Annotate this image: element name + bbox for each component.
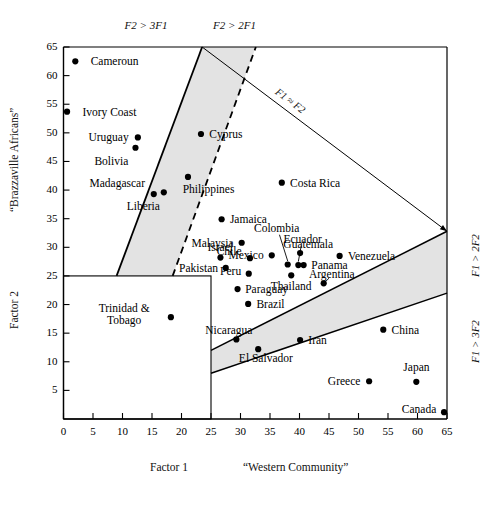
data-point[interactable] [168,314,174,320]
data-point[interactable] [185,174,191,180]
data-point[interactable] [161,189,167,195]
point-label: Peru [220,265,241,277]
point-label: Brazil [256,298,284,310]
point-label: Japan [403,361,429,373]
data-point[interactable] [198,131,204,137]
y-axis-title: Factor 2 [8,291,20,329]
point-label: Greece [328,375,361,387]
data-point[interactable] [64,109,70,115]
x-tick-label: 5 [82,425,104,437]
point-label: Ivory Coast [82,106,136,118]
point-label: Nicaragua [205,324,252,336]
point-label: Canada [402,403,436,415]
y-tick-label: 60 [34,69,58,81]
data-point[interactable] [337,253,343,259]
point-label: Pakistan [179,262,218,274]
point-label: Cyprus [209,128,242,140]
data-point[interactable] [151,191,157,197]
region-label-top: F2 > 2F1 [213,19,256,31]
x-axis-title: Factor 1 [150,461,188,473]
point-label: Uruguay [88,131,128,143]
point-label: Philippines [183,183,235,195]
inset-box [64,276,212,419]
x-tick-label: 35 [259,425,281,437]
point-label: China [392,324,419,336]
point-label: Trinidad &Tobago [99,302,150,326]
point-label: Thailand [271,280,312,292]
x-tick-label: 15 [141,425,163,437]
y-tick-label: 25 [34,269,58,281]
data-point[interactable] [380,327,386,333]
point-label: Iran [308,334,327,346]
data-point[interactable] [295,262,301,268]
y-tick-label: 40 [34,183,58,195]
data-point[interactable] [245,301,251,307]
y-tick-label: 15 [34,326,58,338]
region-label-right: F1 > 3F2 [469,320,481,363]
y-axis-secondary-title: “Brazzaville Africans” [8,108,20,212]
point-label: Bolivia [94,155,128,167]
region-label-top: F2 > 3F1 [125,19,168,31]
x-axis-secondary-title: “Western Community” [243,461,348,473]
data-point[interactable] [321,280,327,286]
diagonal-arrowhead [440,225,447,231]
x-tick-label: 30 [230,425,252,437]
point-label: Costa Rica [290,177,340,189]
chart-root: 0510152025303540455055606551015202530354… [0,0,485,512]
data-point[interactable] [219,216,225,222]
x-tick-label: 50 [348,425,370,437]
data-point[interactable] [413,379,419,385]
y-tick-label: 65 [34,40,58,52]
x-tick-label: 45 [318,425,340,437]
point-label: El Salvador [239,352,293,364]
data-point[interactable] [279,180,285,186]
point-label: Cameroun [91,55,139,67]
x-tick-label: 65 [436,425,458,437]
data-point[interactable] [297,337,303,343]
x-tick-label: 55 [377,425,399,437]
x-tick-label: 25 [200,425,222,437]
data-point[interactable] [297,250,303,256]
data-point[interactable] [301,262,307,268]
data-point[interactable] [366,378,372,384]
data-point[interactable] [285,261,291,267]
data-point[interactable] [234,286,240,292]
y-tick-label: 30 [34,240,58,252]
point-label: Argentina [309,268,355,280]
y-tick-label: 20 [34,298,58,310]
point-label: Mexico [229,249,264,261]
region-label-right: F1 > 2F2 [469,235,481,278]
y-tick-label: 10 [34,355,58,367]
data-point[interactable] [441,409,447,415]
point-label: Venezuela [348,250,395,262]
data-point[interactable] [72,58,78,64]
x-tick-label: 20 [171,425,193,437]
y-tick-label: 35 [34,212,58,224]
x-tick-label: 60 [407,425,429,437]
point-label: Liberia [127,200,160,212]
data-point[interactable] [269,252,275,258]
x-tick-label: 40 [289,425,311,437]
y-tick-label: 50 [34,126,58,138]
y-tick-label: 55 [34,97,58,109]
y-tick-label: 5 [34,383,58,395]
x-tick-label: 10 [112,425,134,437]
data-point[interactable] [246,271,252,277]
point-label: Madagascar [90,177,146,189]
data-point[interactable] [132,145,138,151]
x-tick-label: 0 [53,425,75,437]
point-label: Guatemala [283,238,333,250]
data-point[interactable] [288,272,294,278]
upper-band-fill [117,47,256,276]
y-tick-label: 45 [34,154,58,166]
data-point[interactable] [233,336,239,342]
data-point[interactable] [135,134,141,140]
